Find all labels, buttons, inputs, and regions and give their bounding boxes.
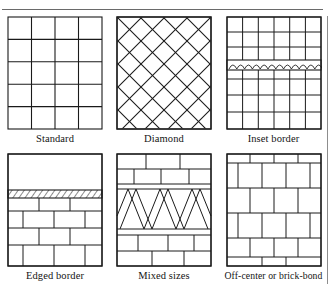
panel-mixed-sizes: Mixed sizes — [110, 151, 218, 288]
page-top-rule — [2, 9, 323, 10]
panel-caption-standard: Standard — [0, 133, 110, 145]
panel-diamond: Diamond — [110, 14, 218, 151]
panel-caption-brick-bond: Off-center or brick-bond — [218, 270, 329, 282]
inset-border-diagram — [226, 16, 322, 130]
panel-caption-inset-border: Inset border — [218, 133, 329, 145]
panel-edged-border: Edged border — [0, 151, 110, 288]
standard-diagram — [7, 16, 103, 130]
panel-inset-border: Inset border — [218, 14, 329, 151]
figure-page: Standard — [0, 0, 329, 288]
brick-bond-diagram — [226, 153, 322, 267]
panel-caption-mixed-sizes: Mixed sizes — [110, 270, 218, 282]
edged-border-diagram — [7, 153, 103, 267]
mixed-sizes-diagram — [116, 153, 212, 267]
panel-caption-diamond: Diamond — [110, 133, 218, 145]
pattern-panel-grid: Standard — [0, 14, 329, 288]
diamond-diagram — [116, 16, 212, 130]
panel-standard: Standard — [0, 14, 110, 151]
panel-brick-bond: Off-center or brick-bond — [218, 151, 329, 288]
panel-caption-edged-border: Edged border — [0, 270, 110, 282]
